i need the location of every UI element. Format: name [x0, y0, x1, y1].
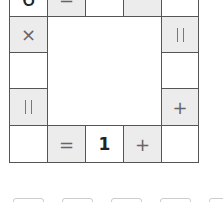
tray-slot-3[interactable] [111, 198, 142, 202]
cell-value: 6 [22, 0, 36, 11]
cell-r4c2[interactable]: 1 [85, 125, 124, 163]
cell-r2c4[interactable] [161, 52, 199, 89]
cell-r0c1: = [47, 0, 86, 17]
cell-r4c3: + [123, 125, 162, 163]
plus-sign: + [172, 97, 187, 118]
equals-sign: = [59, 0, 74, 9]
tray-slot-5[interactable] [209, 198, 223, 202]
center-area [47, 16, 162, 126]
equals-sign: = [59, 134, 74, 155]
cell-r3c4: + [161, 88, 199, 126]
cell-r3c0 [9, 88, 48, 126]
cell-r0c2[interactable] [85, 0, 124, 17]
cell-r0c0[interactable]: 6 [9, 0, 48, 17]
equals-sign-vertical [25, 100, 32, 114]
tray-slot-1[interactable] [13, 198, 44, 202]
cell-r4c4[interactable] [161, 125, 199, 163]
cell-r4c0[interactable] [9, 125, 48, 163]
cell-r1c4 [161, 16, 199, 53]
cell-r0c4[interactable] [161, 0, 199, 17]
cell-r1c0: × [9, 16, 48, 53]
cell-r0c3 [123, 0, 162, 17]
cell-r4c1: = [47, 125, 86, 163]
cell-r2c0[interactable] [9, 52, 48, 89]
puzzle-grid: 6 = × + = 1 + [9, 0, 198, 162]
tray-slot-2[interactable] [62, 198, 93, 202]
cell-value: 1 [99, 134, 111, 154]
equals-sign-vertical [177, 28, 184, 42]
multiply-sign: × [21, 24, 36, 45]
plus-sign: + [135, 134, 150, 155]
tray-slot-4[interactable] [160, 198, 191, 202]
